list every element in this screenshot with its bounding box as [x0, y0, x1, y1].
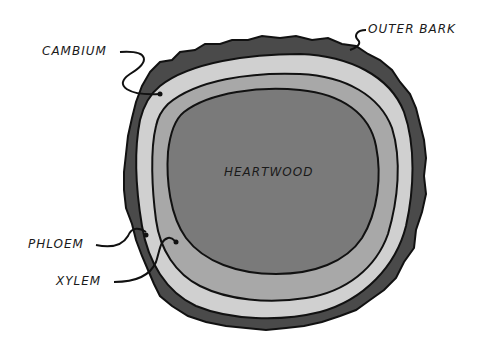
xylem-label: XYLEM — [56, 274, 101, 288]
heartwood-label: HEARTWOOD — [224, 165, 313, 179]
cambium-label: CAMBIUM — [42, 44, 107, 58]
heartwood-layer — [168, 89, 379, 274]
phloem-label: PHLOEM — [28, 237, 84, 251]
outer-bark-label: OUTER BARK — [368, 22, 456, 36]
tree-cross-section-diagram: CAMBIUM OUTER BARK HEARTWOOD PHLOEM XYLE… — [0, 0, 494, 347]
